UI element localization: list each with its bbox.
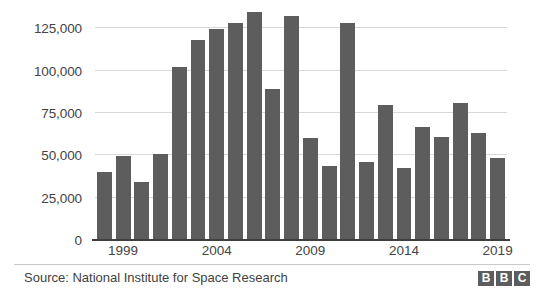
y-axis: 025,00050,00075,000100,000125,000 xyxy=(0,8,88,240)
bar xyxy=(397,168,412,240)
x-axis-tick-label: 2019 xyxy=(483,243,513,258)
x-axis: 19992004200920142019 xyxy=(95,243,507,263)
y-axis-tick-label: 25,000 xyxy=(41,190,82,205)
x-axis-tick-label: 2009 xyxy=(295,243,325,258)
bbc-logo-letter: C xyxy=(514,271,530,286)
bar xyxy=(471,133,486,240)
bar xyxy=(378,105,393,240)
bar xyxy=(453,103,468,240)
x-axis-tick-label: 2004 xyxy=(202,243,232,258)
bar xyxy=(153,154,168,240)
bar xyxy=(191,40,206,240)
bar xyxy=(172,67,187,240)
bar xyxy=(284,16,299,240)
bar xyxy=(322,166,337,240)
bar xyxy=(265,89,280,240)
bar xyxy=(116,156,131,240)
y-axis-tick-label: 0 xyxy=(75,233,82,248)
y-axis-tick-label: 100,000 xyxy=(34,63,82,78)
y-axis-tick-label: 50,000 xyxy=(41,148,82,163)
bar xyxy=(490,158,505,240)
bbc-logo-letter: B xyxy=(478,271,494,286)
bar xyxy=(415,127,430,240)
x-axis-tick-label: 1999 xyxy=(108,243,138,258)
bbc-logo: BBC xyxy=(478,271,530,286)
bar xyxy=(247,12,262,240)
y-axis-tick-label: 75,000 xyxy=(41,105,82,120)
bar xyxy=(209,29,224,240)
bar xyxy=(134,182,149,240)
y-axis-tick-label: 125,000 xyxy=(34,21,82,36)
source-note: Source: National Institute for Space Res… xyxy=(24,270,288,285)
x-axis-tick-label: 2014 xyxy=(389,243,419,258)
footer-divider xyxy=(14,264,530,265)
bbc-logo-letter: B xyxy=(496,271,512,286)
bar xyxy=(359,162,374,240)
bar xyxy=(97,172,112,240)
bar xyxy=(434,137,449,240)
bar xyxy=(228,23,243,240)
bar xyxy=(340,23,355,240)
bar-series xyxy=(95,8,507,240)
x-axis-line xyxy=(92,239,510,241)
plot-area xyxy=(95,8,507,240)
bar-chart-figure: 025,00050,00075,000100,000125,000 199920… xyxy=(0,0,544,294)
bar xyxy=(303,138,318,240)
